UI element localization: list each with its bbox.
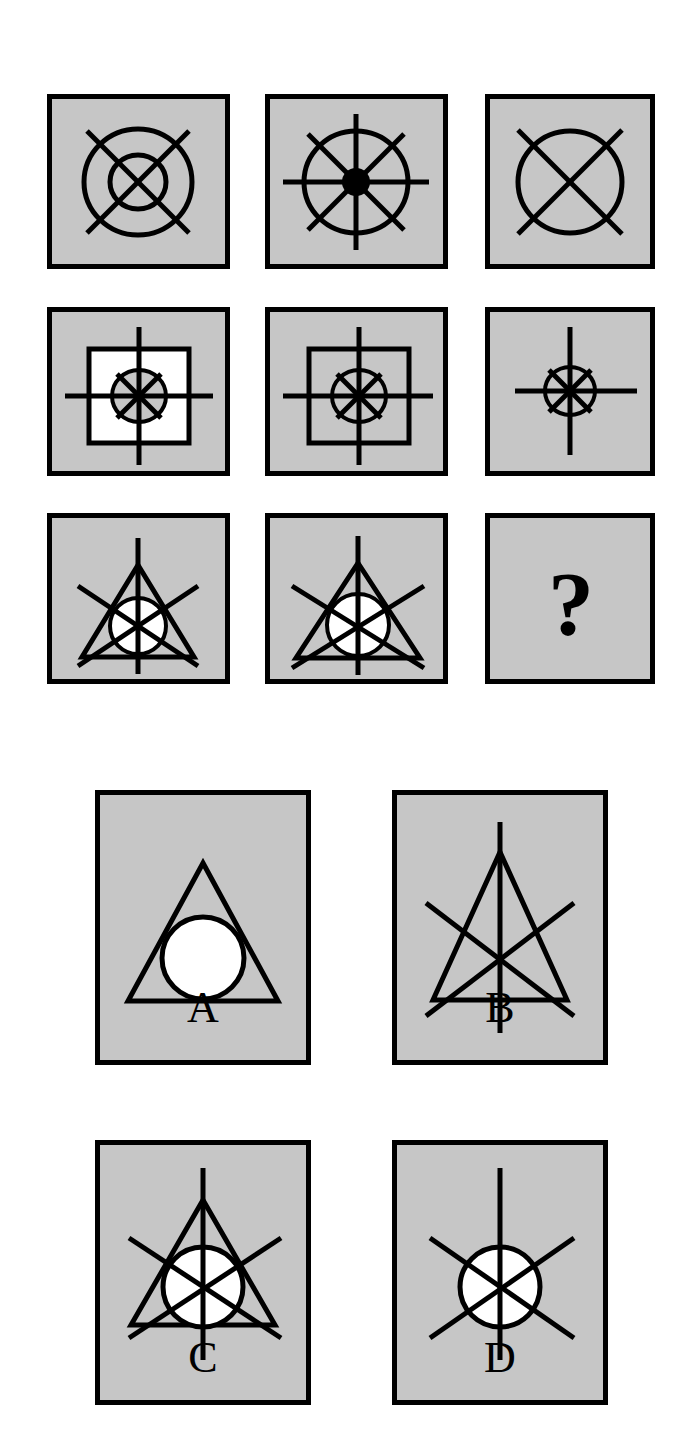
matrix-cell-1-1[interactable] xyxy=(47,94,230,269)
matrix-reasoning-puzzle: ? xyxy=(0,0,695,1453)
matrix-cell-1-2[interactable] xyxy=(265,94,448,269)
matrix-cell-3-1[interactable] xyxy=(47,513,230,684)
matrix-cell-1-3[interactable] xyxy=(485,94,655,269)
option-label-b: B xyxy=(440,985,560,1031)
matrix-cell-2-3[interactable] xyxy=(485,307,655,476)
matrix-cell-2-2[interactable] xyxy=(265,307,448,476)
matrix-cell-3-3-missing[interactable]: ? xyxy=(485,513,655,684)
matrix-cell-2-1[interactable] xyxy=(47,307,230,476)
option-label-d: D xyxy=(440,1335,560,1381)
matrix-cell-3-2[interactable] xyxy=(265,513,448,684)
black-center-dot xyxy=(342,168,370,196)
question-mark-glyph: ? xyxy=(548,553,594,655)
option-label-c: C xyxy=(143,1335,263,1381)
option-label-a: A xyxy=(143,985,263,1031)
